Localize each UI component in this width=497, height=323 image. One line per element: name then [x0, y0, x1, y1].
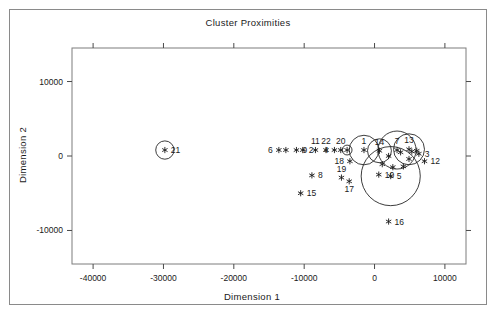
- point-label: 17: [344, 184, 354, 194]
- y-tick-label: 10000: [39, 77, 63, 87]
- asterisk-marker: [332, 147, 337, 153]
- scatter-plot: 21692112242011471331218819171051516 -400…: [0, 0, 497, 323]
- x-tick-label: -30000: [150, 273, 177, 283]
- point-label: 12: [430, 156, 440, 166]
- point-label: 20: [336, 136, 346, 146]
- asterisk-marker: [313, 147, 318, 153]
- asterisk-marker: [309, 172, 314, 178]
- x-tick-label: -40000: [80, 273, 107, 283]
- point-labels: 21692112242011471331218819171051516: [171, 135, 440, 226]
- y-tick-label: -10000: [37, 225, 64, 235]
- x-tick-label: -10000: [291, 273, 318, 283]
- asterisk-marker: [398, 149, 403, 155]
- point-label: 1: [362, 136, 367, 146]
- asterisk-marker: [294, 147, 299, 153]
- asterisk-marker: [298, 190, 303, 196]
- asterisk-marker: [361, 147, 366, 153]
- asterisk-marker: [162, 147, 167, 153]
- asterisk-marker: [283, 147, 288, 153]
- point-label: 11: [311, 136, 320, 146]
- axis-ticks: [67, 43, 471, 269]
- point-label: 21: [171, 145, 181, 155]
- plot-frame: [72, 48, 466, 264]
- point-label: 5: [397, 171, 402, 181]
- point-label: 4: [324, 145, 329, 155]
- asterisk-marker: [276, 147, 281, 153]
- tick-labels: -40000-30000-20000-10000010000100000-100…: [37, 77, 457, 283]
- asterisk-marker: [386, 218, 391, 224]
- point-label: 13: [404, 135, 414, 145]
- point-label: 7: [395, 136, 400, 146]
- x-tick-label: -20000: [221, 273, 248, 283]
- point-label: 19: [337, 164, 347, 174]
- asterisk-marker: [377, 148, 382, 154]
- y-axis-title: Dimension 2: [17, 127, 28, 183]
- point-label: 2: [309, 145, 314, 155]
- asterisk-marker: [376, 172, 381, 178]
- figure-canvas: 21692112242011471331218819171051516 -400…: [0, 0, 497, 323]
- asterisk-marker: [339, 175, 344, 181]
- point-label: 14: [375, 137, 385, 147]
- point-label: 9: [302, 145, 307, 155]
- y-tick-label: 0: [58, 151, 63, 161]
- point-label: 8: [318, 170, 323, 180]
- x-tick-label: 10000: [433, 273, 457, 283]
- asterisk-marker: [406, 156, 411, 162]
- point-label: 15: [307, 188, 317, 198]
- point-label: 16: [395, 217, 405, 227]
- data-markers: [162, 146, 427, 224]
- point-label: 6: [268, 145, 273, 155]
- chart-title: Cluster Proximities: [206, 17, 291, 28]
- x-axis-title: Dimension 1: [224, 291, 280, 302]
- x-tick-label: 0: [372, 273, 377, 283]
- point-label: 3: [425, 149, 430, 159]
- asterisk-marker: [422, 158, 427, 164]
- point-label: 10: [385, 170, 395, 180]
